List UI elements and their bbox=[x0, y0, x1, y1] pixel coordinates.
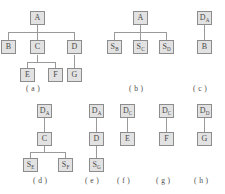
node-f-DC: DC bbox=[120, 104, 135, 118]
edge-b-to-SD bbox=[166, 32, 167, 40]
node-e-SG-label: SG bbox=[92, 161, 100, 169]
node-c-DA-label: DA bbox=[200, 14, 210, 22]
node-a-F: F bbox=[48, 68, 63, 82]
node-f-E: E bbox=[120, 132, 135, 146]
edge-b-A-down bbox=[140, 25, 141, 32]
node-e-DA: DA bbox=[89, 104, 104, 118]
node-f-DC-label: DC bbox=[123, 107, 132, 115]
node-d-C-label: C bbox=[42, 135, 47, 143]
node-g-DC-label: DC bbox=[162, 107, 171, 115]
edge-b-to-SB bbox=[114, 32, 115, 40]
edge-d-C-bus bbox=[30, 152, 65, 153]
edge-a-D-to-G bbox=[74, 55, 75, 68]
node-b-SB-label: SB bbox=[111, 43, 119, 51]
node-b-SB: SB bbox=[107, 40, 122, 54]
node-b-SC: SC bbox=[133, 40, 148, 54]
node-e-D-label: D bbox=[94, 135, 100, 143]
edge-e-D-to-SG bbox=[96, 146, 97, 158]
node-a-C: C bbox=[30, 40, 45, 54]
caption-b: ( b ) bbox=[129, 84, 144, 93]
node-h-G: G bbox=[197, 132, 212, 146]
caption-a: ( a ) bbox=[26, 84, 40, 93]
node-g-F-label: F bbox=[164, 135, 168, 143]
edge-a-to-B bbox=[8, 32, 9, 40]
node-d-C: C bbox=[37, 132, 52, 146]
edge-f-DC-to-E bbox=[127, 118, 128, 132]
node-d-DA: DA bbox=[37, 104, 52, 118]
node-b-SD: SD bbox=[159, 40, 174, 54]
node-c-B: B bbox=[197, 40, 212, 54]
edge-d-DA-to-C bbox=[44, 118, 45, 132]
edge-a-to-D bbox=[74, 32, 75, 40]
node-b-SC-label: SC bbox=[137, 43, 145, 51]
caption-h: ( h ) bbox=[194, 176, 209, 185]
edge-e-DA-to-D bbox=[96, 118, 97, 132]
edge-a-A-down bbox=[37, 25, 38, 32]
node-h-DD-label: DD bbox=[200, 107, 210, 115]
edge-c-DA-to-B bbox=[204, 25, 205, 40]
caption-g: ( g ) bbox=[156, 176, 171, 185]
node-d-SF-label: SF bbox=[62, 161, 69, 169]
node-d-DA-label: DA bbox=[40, 107, 50, 115]
caption-f: ( f ) bbox=[117, 176, 130, 185]
node-d-SE-label: SE bbox=[27, 161, 35, 169]
node-a-E: E bbox=[20, 68, 35, 82]
node-b-A: A bbox=[133, 11, 148, 25]
node-d-SF: SF bbox=[58, 158, 73, 172]
edge-a-C-down bbox=[37, 55, 38, 62]
node-b-A-label: A bbox=[138, 14, 144, 22]
node-e-D: D bbox=[89, 132, 104, 146]
tree-diagram-figure: A B C D E F G ( a ) A SB SC SD ( b ) DA … bbox=[0, 0, 225, 194]
caption-e: ( e ) bbox=[85, 176, 99, 185]
node-h-DD: DD bbox=[197, 104, 212, 118]
node-f-E-label: E bbox=[125, 135, 130, 143]
node-a-G: G bbox=[67, 68, 82, 82]
node-a-D: D bbox=[67, 40, 82, 54]
edge-h-DD-to-G bbox=[204, 118, 205, 132]
node-g-F: F bbox=[159, 132, 174, 146]
edge-b-to-SC bbox=[140, 32, 141, 40]
node-g-DC: DC bbox=[159, 104, 174, 118]
node-c-DA: DA bbox=[197, 11, 212, 25]
caption-c: ( c ) bbox=[193, 84, 207, 93]
edge-a-A-bus bbox=[8, 32, 74, 33]
node-a-D-label: D bbox=[72, 43, 78, 51]
node-e-DA-label: DA bbox=[92, 107, 102, 115]
node-a-B-label: B bbox=[6, 43, 11, 51]
node-c-B-label: B bbox=[202, 43, 207, 51]
node-a-C-label: C bbox=[35, 43, 40, 51]
edge-a-C-bus bbox=[27, 62, 56, 63]
node-a-F-label: F bbox=[53, 71, 57, 79]
node-h-G-label: G bbox=[202, 135, 208, 143]
node-d-SE: SE bbox=[23, 158, 38, 172]
node-a-G-label: G bbox=[72, 71, 78, 79]
node-e-SG: SG bbox=[89, 158, 104, 172]
caption-d: ( d ) bbox=[33, 176, 48, 185]
node-b-SD-label: SD bbox=[162, 43, 170, 51]
node-a-E-label: E bbox=[25, 71, 30, 79]
node-a-A-label: A bbox=[35, 14, 41, 22]
node-a-B: B bbox=[1, 40, 16, 54]
edge-a-to-C bbox=[37, 32, 38, 40]
edge-g-DC-to-F bbox=[166, 118, 167, 132]
node-a-A: A bbox=[30, 11, 45, 25]
